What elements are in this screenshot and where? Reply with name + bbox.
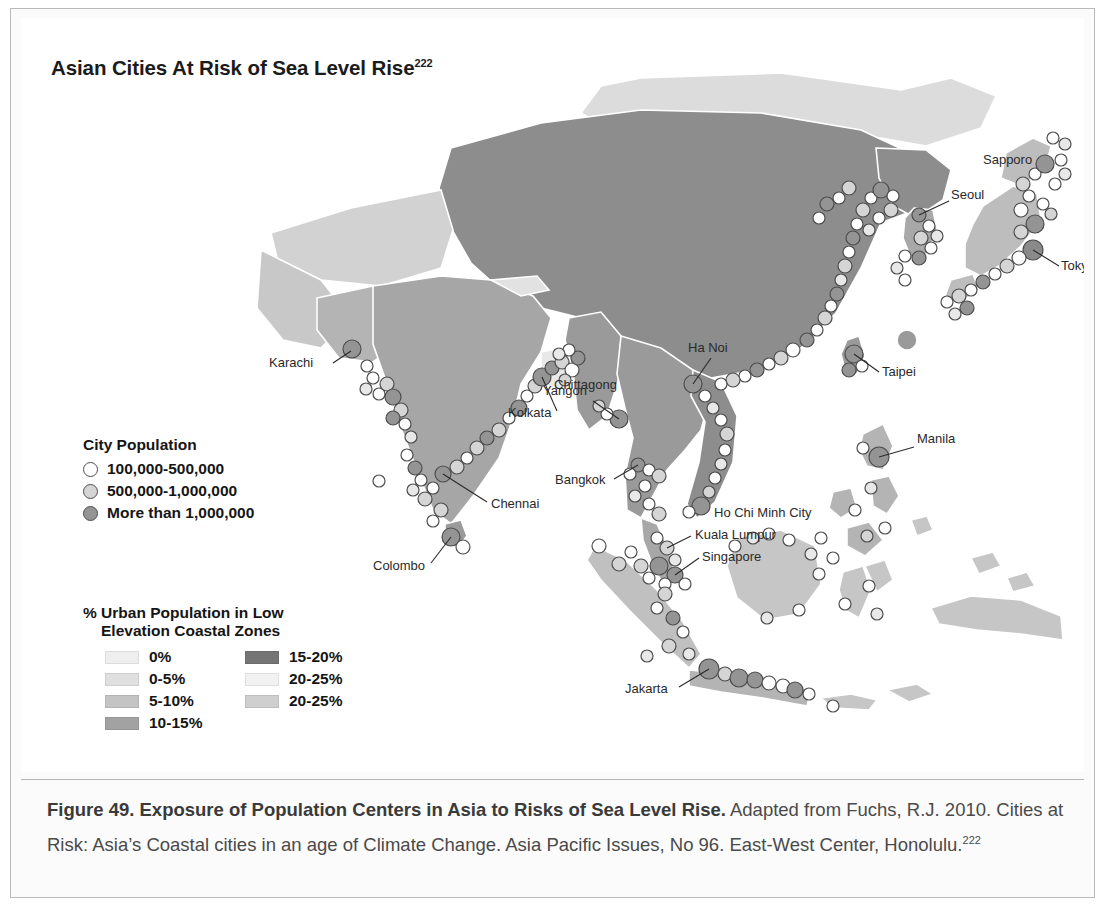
figure-container: KarachiKolkataChittagongYangonChennaiCol… [10,8,1095,898]
coastal-zone-legend-label: 15-20% [289,648,342,666]
city-label-kolkata: Kolkata [508,405,552,420]
coastal-zone-legend-label: 0-5% [149,670,185,688]
city-population-legend: City Population 100,000-500,000500,000-1… [83,436,333,524]
map-title-text: Asian Cities At Risk of Sea Level Rise [51,56,414,79]
coastal-zone-legend: % Urban Population in Low Elevation Coas… [83,604,373,734]
caption-divider [21,779,1084,780]
city-label-karachi: Karachi [269,355,313,370]
city-label-jakarta: Jakarta [625,681,668,696]
city-population-legend-label: 500,000-1,000,000 [107,482,237,500]
figure-caption: Figure 49. Exposure of Population Center… [47,795,1067,860]
coastal-zone-legend-label: 20-25% [289,670,342,688]
coastal-zone-legend-row: 5-10% [83,690,221,712]
city-label-bangkok: Bangkok [555,472,606,487]
city-population-legend-label: More than 1,000,000 [107,504,254,522]
coastal-zone-legend-label: 20-25% [289,692,342,710]
coastal-zone-legend-title-line1: % Urban Population in Low [83,604,373,622]
figure-caption-superscript: 222 [963,834,981,846]
coastal-zone-swatch [245,695,279,708]
coastal-zone-legend-left-column: 0%0-5%5-10%10-15% [83,646,221,734]
map-title: Asian Cities At Risk of Sea Level Rise22… [51,56,433,80]
city-label-ha-noi: Ha Noi [688,340,728,355]
coastal-zone-legend-row: 20-25% [223,668,361,690]
coastal-zone-legend-row: 15-20% [223,646,361,668]
coastal-zone-swatch [105,695,139,708]
city-label-seoul: Seoul [951,187,984,202]
city-population-legend-row: 500,000-1,000,000 [83,480,333,502]
city-label-colombo: Colombo [373,558,425,573]
coastal-zone-legend-right-column: 15-20%20-25%20-25% [223,646,361,734]
coastal-zone-legend-label: 10-15% [149,714,202,732]
city-population-legend-row: 100,000-500,000 [83,458,333,480]
map-title-superscript: 222 [414,57,432,69]
city-population-legend-row: More than 1,000,000 [83,502,333,524]
city-label-kuala-lumpur: Kuala Lumpur [695,527,777,542]
coastal-zone-legend-row: 10-15% [83,712,221,734]
coastal-zone-swatch [105,673,139,686]
coastal-zone-legend-columns: 0%0-5%5-10%10-15% 15-20%20-25%20-25% [83,646,373,734]
city-population-swatch [83,506,98,521]
city-label-taipei: Taipei [882,364,916,379]
coastal-zone-legend-row: 0% [83,646,221,668]
coastal-zone-swatch [245,651,279,664]
city-label-tokyo: Tokyo [1061,258,1084,273]
city-population-legend-rows: 100,000-500,000500,000-1,000,000More tha… [83,458,333,524]
city-label-manila: Manila [917,431,956,446]
coastal-zone-legend-title-line2: Elevation Coastal Zones [101,622,373,640]
coastal-zone-legend-label: 0% [149,648,171,666]
coastal-zone-legend-row: 20-25% [223,690,361,712]
city-population-swatch [83,462,98,477]
figure-caption-bold: Figure 49. Exposure of Population Center… [47,799,726,820]
city-population-legend-label: 100,000-500,000 [107,460,224,478]
map-panel: KarachiKolkataChittagongYangonChennaiCol… [21,18,1084,772]
city-label-chennai: Chennai [491,496,540,511]
coastal-zone-swatch [245,673,279,686]
city-population-swatch [83,484,98,499]
coastal-zone-swatch [105,717,139,730]
coastal-zone-swatch [105,651,139,664]
city-label-sapporo: Sapporo [983,152,1032,167]
coastal-zone-legend-row: 0-5% [83,668,221,690]
city-leader-line [431,537,451,563]
city-label-yangon: Yangon [543,383,587,398]
city-label-singapore: Singapore [702,549,761,564]
city-population-legend-title: City Population [83,436,333,454]
city-label-ho-chi-minh-city: Ho Chi Minh City [714,505,812,520]
coastal-zone-legend-label: 5-10% [149,692,194,710]
